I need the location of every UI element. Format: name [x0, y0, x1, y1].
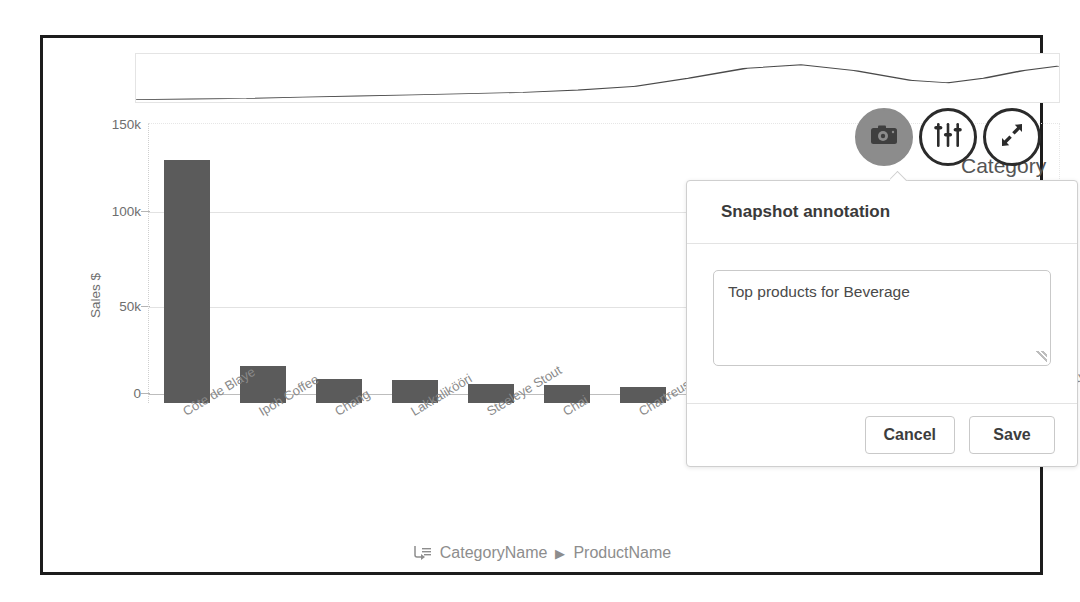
snapshot-annotation-dialog: Snapshot annotation Cancel Save: [686, 180, 1078, 467]
fullscreen-button[interactable]: [983, 108, 1041, 166]
dialog-title: Snapshot annotation: [721, 202, 890, 222]
y-tick-label: 50k: [119, 299, 141, 314]
cancel-button[interactable]: Cancel: [865, 416, 955, 454]
dimension-breadcrumb[interactable]: CategoryName ▶ ProductName: [43, 540, 1040, 566]
camera-icon: [870, 124, 898, 150]
y-tick-label: 150k: [112, 117, 141, 132]
save-button[interactable]: Save: [969, 416, 1055, 454]
dialog-footer: Cancel Save: [687, 403, 1077, 466]
dimension-separator-icon: ▶: [555, 546, 565, 561]
expand-arrows-icon: [998, 122, 1026, 152]
dialog-body: [687, 244, 1077, 370]
sparkline-path: [136, 65, 1059, 100]
y-axis: 150k 100k 50k 0: [73, 123, 141, 403]
snapshot-button[interactable]: [855, 108, 913, 166]
y-tick-label: 100k: [112, 204, 141, 219]
sliders-icon: [933, 121, 963, 153]
chart-options-button[interactable]: [919, 108, 977, 166]
popover-arrow: [890, 171, 910, 181]
annotation-textarea[interactable]: [713, 270, 1051, 366]
sparkline-svg: [136, 54, 1059, 102]
dimension-level-2[interactable]: ProductName: [573, 544, 671, 562]
y-axis-title: Sales $: [88, 236, 103, 356]
overview-sparkline-strip[interactable]: [135, 53, 1060, 103]
dialog-header: Snapshot annotation: [687, 181, 1077, 244]
bar[interactable]: [164, 160, 210, 403]
chart-panel: 150k 100k 50k 0 Sales $ Côte de BlayeIpo…: [40, 35, 1043, 575]
y-tick-label: 0: [133, 386, 141, 401]
dimension-level-1[interactable]: CategoryName: [440, 544, 548, 562]
drill-down-icon: [412, 545, 432, 561]
